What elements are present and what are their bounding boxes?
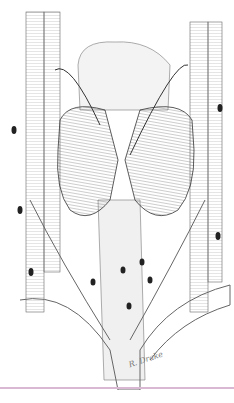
left-carotid [26, 12, 44, 312]
bottom-divider [0, 387, 234, 389]
thyroid-left-lobe [58, 107, 119, 216]
right-jugular [208, 22, 222, 282]
trachea [98, 200, 145, 380]
thyroid-illustration [0, 0, 234, 390]
thyroid-right-lobe [125, 107, 194, 216]
left-jugular [44, 12, 60, 272]
larynx [78, 42, 170, 110]
